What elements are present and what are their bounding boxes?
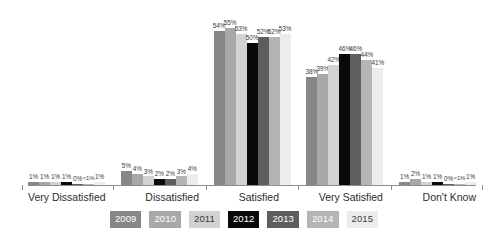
bar-value-label: 1% [422,174,431,180]
bar[interactable] [214,31,225,185]
bar-column[interactable]: 53% [236,0,247,185]
bar[interactable] [361,60,372,185]
bar-value-label: <1% [83,176,95,182]
bar-value-label: 0% [444,176,453,182]
legend-item-2011[interactable]: 2011 [189,211,220,228]
bar[interactable] [176,176,187,185]
bar-column[interactable]: 4% [187,0,198,185]
bar-column[interactable]: 1% [465,0,476,185]
bar-column[interactable]: 42% [328,0,339,185]
bar[interactable] [258,37,269,185]
bar-value-label: 1% [95,174,104,180]
bar-column[interactable]: 53% [280,0,291,185]
bar-value-label: 4% [133,166,142,172]
bar[interactable] [280,34,291,185]
bar-value-label: 1% [51,174,60,180]
bar-column[interactable]: 2% [154,0,165,185]
bar-value-label: 4% [188,166,197,172]
bar-column[interactable]: 0% [443,0,454,185]
axis-baseline [28,185,476,186]
bar-groups: 1%1%1%1%0%<1%1%5%4%3%2%2%3%4%54%55%53%50… [28,0,476,185]
category-label: Don't Know [423,190,476,208]
bar-value-label: 39% [317,66,330,72]
bar-column[interactable]: 1% [61,0,72,185]
category-label: Satisfied [239,190,279,208]
bar-value-label: 1% [400,174,409,180]
legend-item-2014[interactable]: 2014 [307,211,339,228]
legend-item-2010[interactable]: 2010 [149,211,181,228]
legend-item-2012[interactable]: 2012 [228,211,260,228]
category-label: Very Dissatisfied [28,190,106,208]
bar-column[interactable]: 3% [176,0,187,185]
bar[interactable] [132,174,143,185]
bar-column[interactable]: 41% [372,0,383,185]
bar-column[interactable]: 1% [94,0,105,185]
bar-column[interactable]: 54% [214,0,225,185]
bar-column[interactable]: 2% [165,0,176,185]
bar-column[interactable]: 46% [350,0,361,185]
bar-column[interactable]: <1% [83,0,94,185]
plot-area: 1%1%1%1%0%<1%1%5%4%3%2%2%3%4%54%55%53%50… [0,0,488,185]
bar-value-label: <1% [454,176,466,182]
bar-column[interactable]: 1% [399,0,410,185]
bar[interactable] [121,171,132,185]
legend-item-2009[interactable]: 2009 [110,211,142,228]
bar-value-label: 5% [122,163,131,169]
bar-value-label: 53% [235,26,248,32]
bar-value-label: 1% [29,174,38,180]
bar[interactable] [143,176,154,185]
axis-tick [482,185,483,190]
category-labels: Very DissatisfiedDissatisfiedSatisfiedVe… [28,190,476,208]
category-label: Very Satisfied [319,190,383,208]
bar-column[interactable]: 1% [50,0,61,185]
axis-tick [22,185,23,190]
bar-value-label: 41% [372,60,385,66]
bar[interactable] [339,54,350,185]
bar[interactable] [187,174,198,185]
bar-value-label: 1% [466,174,475,180]
bar-value-label: 53% [279,26,292,32]
bar[interactable] [236,34,247,185]
category-label: Dissatisfied [145,190,199,208]
bar-column[interactable]: 1% [39,0,50,185]
bar[interactable] [372,68,383,185]
bar-column[interactable]: 5% [121,0,132,185]
bar-column[interactable]: 1% [28,0,39,185]
bar-value-label: 42% [328,57,341,63]
bar-group: 38%39%42%46%46%44%41% [306,0,383,185]
bar-column[interactable]: 1% [432,0,443,185]
bar-value-label: 0% [73,176,82,182]
bar[interactable] [350,54,361,185]
bar-group: 54%55%53%50%52%52%53% [214,0,291,185]
bar[interactable] [317,74,328,185]
bar-value-label: 50% [246,35,259,41]
bar-column[interactable]: 38% [306,0,317,185]
bar-column[interactable]: 4% [132,0,143,185]
bar-value-label: 2% [155,171,164,177]
bar-value-label: 1% [40,174,49,180]
bar[interactable] [225,28,236,185]
bar-column[interactable]: 2% [410,0,421,185]
bar-column[interactable]: 39% [317,0,328,185]
bar-column[interactable]: 1% [421,0,432,185]
bar-group: 5%4%3%2%2%3%4% [121,0,198,185]
bar-column[interactable]: 3% [143,0,154,185]
bar-value-label: 1% [62,174,71,180]
bar[interactable] [269,37,280,185]
bar-column[interactable]: 44% [361,0,372,185]
legend-item-2015[interactable]: 2015 [347,211,379,228]
bar-column[interactable]: 0% [72,0,83,185]
bar-value-label: 3% [144,169,153,175]
bar-column[interactable]: 46% [339,0,350,185]
bar[interactable] [328,65,339,185]
bar[interactable] [247,43,258,186]
bar-column[interactable]: 52% [258,0,269,185]
bar-value-label: 1% [433,174,442,180]
legend-item-2013[interactable]: 2013 [267,211,299,228]
bar-value-label: 3% [177,169,186,175]
bar-column[interactable]: <1% [454,0,465,185]
bar[interactable] [306,77,317,185]
grouped-bar-chart: 1%1%1%1%0%<1%1%5%4%3%2%2%3%4%54%55%53%50… [0,0,488,237]
bar-value-label: 2% [166,171,175,177]
bar-column[interactable]: 50% [247,0,258,185]
